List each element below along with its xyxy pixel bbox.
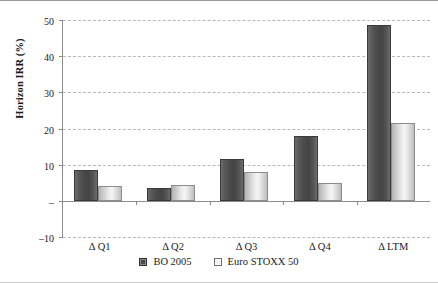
legend-item: Euro STOXX 50	[214, 256, 299, 267]
x-axis-tick-label: Δ Q1	[89, 241, 111, 252]
y-axis-tick-label: 30	[44, 88, 54, 99]
x-axis-separator-tick	[210, 201, 211, 205]
y-axis-title: Horizon IRR (%)	[14, 19, 25, 139]
x-axis-tick-label: Δ Q2	[162, 241, 184, 252]
bar-group	[136, 20, 209, 237]
bar	[74, 170, 98, 201]
legend-label: Euro STOXX 50	[228, 256, 299, 267]
y-axis-tick-label: 40	[44, 52, 54, 63]
plot-area	[63, 20, 430, 237]
chart-figure: Horizon IRR (%) 5040302010––10 BO 2005Eu…	[0, 0, 438, 283]
x-axis-separator-tick	[357, 201, 358, 205]
x-axis-tick-label: Δ Q3	[236, 241, 258, 252]
legend-swatch-icon	[139, 258, 147, 266]
bar-group	[63, 20, 136, 237]
chart-legend: BO 2005Euro STOXX 50	[0, 256, 438, 267]
x-axis-separator-tick	[283, 201, 284, 205]
bar	[171, 185, 195, 201]
legend-item: BO 2005	[139, 256, 191, 267]
bar-group	[357, 20, 430, 237]
bar	[391, 123, 415, 201]
y-axis-tick-label: –10	[39, 233, 54, 244]
y-axis-tick-label: –	[49, 196, 54, 207]
y-axis-tick-label: 10	[44, 160, 54, 171]
bar	[220, 159, 244, 201]
bar	[318, 183, 342, 201]
y-axis-tick-label: 20	[44, 124, 54, 135]
bar	[147, 188, 171, 201]
x-axis-tick-label: Δ LTM	[378, 241, 408, 252]
bar-group	[283, 20, 356, 237]
bar	[294, 136, 318, 201]
bar-group	[210, 20, 283, 237]
x-axis-separator-tick	[136, 201, 137, 205]
gridline	[63, 237, 430, 238]
legend-label: BO 2005	[153, 256, 191, 267]
x-axis-tick-label: Δ Q4	[309, 241, 331, 252]
y-axis-tick-label: 50	[44, 16, 54, 27]
bar	[367, 25, 391, 200]
bar	[98, 186, 122, 200]
bar	[244, 172, 268, 201]
legend-swatch-icon	[214, 258, 222, 266]
